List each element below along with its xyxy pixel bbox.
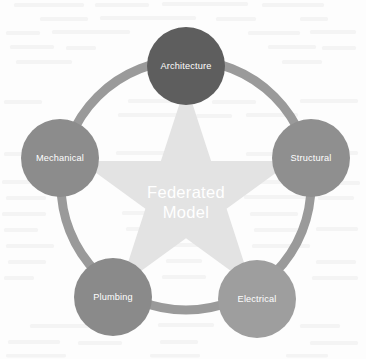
node-structural-label: Structural	[291, 153, 332, 163]
node-plumbing-label: Plumbing	[93, 292, 133, 302]
center-label-line2: Model	[163, 203, 209, 221]
node-mechanical[interactable]: Mechanical	[21, 119, 99, 197]
node-electrical[interactable]: Electrical	[218, 260, 296, 338]
center-label-line1: Federated	[147, 183, 225, 201]
node-plumbing[interactable]: Plumbing	[74, 258, 152, 336]
node-mechanical-label: Mechanical	[36, 153, 84, 163]
node-electrical-label: Electrical	[238, 294, 277, 304]
node-structural[interactable]: Structural	[272, 119, 350, 197]
node-architecture[interactable]: Architecture	[147, 27, 225, 105]
federated-model-diagram: Federated Model Architecture Structural …	[0, 0, 366, 359]
node-architecture-label: Architecture	[161, 61, 212, 71]
diagram-canvas: Federated Model Architecture Structural …	[0, 0, 366, 359]
